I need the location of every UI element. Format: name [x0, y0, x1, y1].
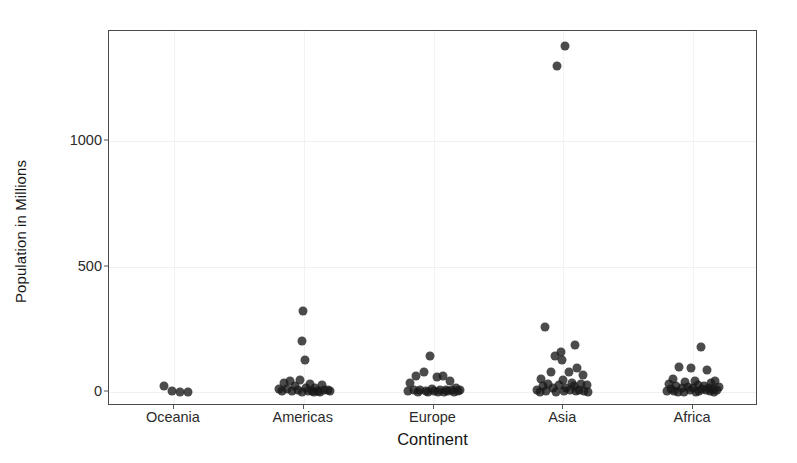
data-point — [687, 364, 696, 373]
data-point — [419, 367, 428, 376]
data-point — [703, 365, 712, 374]
gridline-vertical — [304, 31, 305, 404]
data-point — [309, 388, 318, 397]
x-tick-label-europe: Europe — [409, 409, 456, 425]
data-point — [561, 42, 570, 51]
y-axis-title: Population in Millions — [0, 0, 40, 463]
x-tick-label-oceania: Oceania — [146, 409, 200, 425]
y-tick-label: 0 — [42, 383, 102, 399]
x-tick-label-asia: Asia — [548, 409, 576, 425]
data-point — [675, 362, 684, 371]
data-point — [579, 371, 588, 380]
gridline-horizontal — [109, 141, 756, 142]
data-point — [697, 342, 706, 351]
data-point — [297, 336, 306, 345]
data-point — [298, 307, 307, 316]
data-point — [674, 388, 683, 397]
data-point — [449, 387, 458, 396]
plot-panel — [108, 30, 757, 405]
data-point — [552, 387, 561, 396]
data-point — [663, 387, 672, 396]
data-point — [571, 340, 580, 349]
data-point — [553, 62, 562, 71]
data-point — [541, 323, 550, 332]
gridline-vertical — [693, 31, 694, 404]
data-point — [300, 356, 309, 365]
data-point — [325, 387, 334, 396]
gridline-horizontal — [109, 267, 756, 268]
data-point — [183, 388, 192, 397]
data-point — [558, 356, 567, 365]
y-tick-label: 1000 — [42, 132, 102, 148]
y-tick-label: 500 — [42, 258, 102, 274]
data-point — [425, 352, 434, 361]
data-point — [692, 387, 701, 396]
data-point — [560, 387, 569, 396]
gridline-vertical — [434, 31, 435, 404]
x-tick-label-africa: Africa — [674, 409, 711, 425]
data-point — [277, 387, 286, 396]
data-point — [433, 388, 442, 397]
data-point — [403, 386, 412, 395]
data-point — [572, 387, 581, 396]
gridline-vertical — [174, 31, 175, 404]
data-point — [584, 387, 593, 396]
data-point — [432, 373, 441, 382]
data-point — [423, 388, 432, 397]
population-by-continent-chart: Population in Millions 05001000 OceaniaA… — [0, 0, 797, 463]
data-point — [536, 388, 545, 397]
data-point — [287, 387, 296, 396]
y-axis-tick-labels: 05001000 — [38, 0, 102, 463]
data-point — [413, 387, 422, 396]
data-point — [547, 367, 556, 376]
x-axis-title: Continent — [108, 430, 757, 449]
data-point — [710, 387, 719, 396]
data-point — [297, 388, 306, 397]
x-tick-label-americas: Americas — [272, 409, 332, 425]
